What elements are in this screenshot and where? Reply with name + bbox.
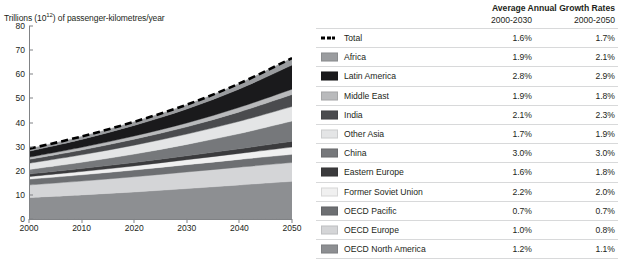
legend-series-label: China <box>344 148 366 158</box>
x-axis-tick-mark <box>292 219 293 223</box>
y-axis-tick-mark <box>29 194 33 195</box>
legend-table: Average Annual Growth Rates 2000-2030 20… <box>316 0 618 249</box>
legend-growth-2000-2050: 3.0% <box>595 148 615 158</box>
y-axis-tick-mark <box>29 219 33 220</box>
plot-area: 80706050403020100 2000201020202030204020… <box>29 26 292 219</box>
legend-series-label: India <box>344 110 363 120</box>
y-axis-tick-mark <box>29 74 33 75</box>
legend-growth-2000-2030: 1.9% <box>512 91 532 101</box>
legend-growth-2000-2050: 2.1% <box>595 52 615 62</box>
legend-row: Latin America2.8%2.9% <box>316 66 618 85</box>
legend-swatch-icon <box>321 245 338 254</box>
legend-series-label: Middle East <box>344 91 389 101</box>
y-axis-tick-label: 70 <box>16 46 25 55</box>
legend-header: Average Annual Growth Rates 2000-2030 20… <box>316 0 618 28</box>
legend-row: Eastern Europe1.6%1.8% <box>316 162 618 181</box>
y-axis-tick-mark <box>29 170 33 171</box>
legend-series-label: OECD Europe <box>344 225 399 235</box>
legend-series-label: Africa <box>344 52 366 62</box>
chart-panel: Trillions (1012) of passenger-kilometres… <box>0 0 310 249</box>
legend-swatch-icon <box>321 149 338 158</box>
legend-swatch-icon <box>321 225 338 234</box>
legend-header-title: Average Annual Growth Rates <box>492 3 615 13</box>
legend-growth-2000-2030: 1.6% <box>512 167 532 177</box>
legend-series-label: Eastern Europe <box>344 167 404 177</box>
y-axis-title: Trillions (1012) of passenger-kilometres… <box>4 12 165 23</box>
x-axis-tick-mark <box>134 219 135 223</box>
legend-row: OECD North America1.2%1.1% <box>316 239 618 259</box>
legend-header-col-2000-2030: 2000-2030 <box>491 15 532 25</box>
y-axis-tick-label: 60 <box>16 70 25 79</box>
legend-growth-2000-2050: 1.8% <box>595 91 615 101</box>
legend-swatch-icon <box>321 110 338 119</box>
legend-growth-2000-2050: 0.8% <box>595 225 615 235</box>
legend-row: Former Soviet Union2.2%2.0% <box>316 182 618 201</box>
legend-growth-2000-2030: 2.1% <box>512 110 532 120</box>
legend-row: Other Asia1.7%1.9% <box>316 124 618 143</box>
legend-growth-2000-2030: 1.2% <box>512 244 532 254</box>
legend-series-label: OECD Pacific <box>344 206 397 216</box>
y-axis-tick-label: 30 <box>16 142 25 151</box>
legend-row: China3.0%3.0% <box>316 143 618 162</box>
x-axis-tick-label: 2050 <box>283 224 302 233</box>
y-axis-tick-mark <box>29 50 33 51</box>
y-axis-tick-label: 20 <box>16 167 25 176</box>
legend-growth-2000-2030: 0.7% <box>512 206 532 216</box>
x-axis-tick-label: 2030 <box>177 224 196 233</box>
legend-series-label: OECD North America <box>344 244 426 254</box>
legend-growth-2000-2050: 2.9% <box>595 71 615 81</box>
y-axis-tick-label: 80 <box>16 22 25 31</box>
y-axis-tick-mark <box>29 98 33 99</box>
y-axis-tick-mark <box>29 26 33 27</box>
x-axis-tick-mark <box>239 219 240 223</box>
y-axis-title-prefix: Trillions (10 <box>4 13 46 23</box>
x-axis-tick-mark <box>29 219 30 223</box>
y-axis-tick-label: 10 <box>16 191 25 200</box>
legend-swatch-icon <box>321 206 338 215</box>
x-axis-tick-label: 2020 <box>125 224 144 233</box>
legend-row: Middle East1.9%1.8% <box>316 86 618 105</box>
y-axis-tick-label: 50 <box>16 94 25 103</box>
legend-row: India2.1%2.3% <box>316 105 618 124</box>
legend-growth-2000-2050: 1.8% <box>595 167 615 177</box>
stacked-area-plot <box>29 26 292 219</box>
legend-growth-2000-2050: 1.9% <box>595 129 615 139</box>
y-axis-tick-label: 40 <box>16 118 25 127</box>
legend-series-label: Total <box>344 33 362 43</box>
legend-growth-2000-2050: 2.0% <box>595 187 615 197</box>
x-axis-tick-mark <box>81 219 82 223</box>
legend-growth-2000-2050: 1.7% <box>595 33 615 43</box>
x-axis-line <box>29 219 292 220</box>
legend-growth-2000-2030: 2.8% <box>512 71 532 81</box>
legend-series-label: Former Soviet Union <box>344 187 423 197</box>
legend-growth-2000-2050: 1.1% <box>595 244 615 254</box>
y-axis-title-suffix: ) of passenger-kilometres/year <box>53 13 165 23</box>
legend-swatch-icon <box>321 168 338 177</box>
legend-header-col-2000-2050: 2000-2050 <box>574 15 615 25</box>
legend-row-list: Total1.6%1.7%Africa1.9%2.1%Latin America… <box>316 28 618 259</box>
legend-growth-2000-2050: 2.3% <box>595 110 615 120</box>
legend-swatch-icon <box>321 187 338 196</box>
x-axis-tick-label: 2010 <box>72 224 91 233</box>
x-axis-tick-mark <box>186 219 187 223</box>
legend-growth-2000-2030: 3.0% <box>512 148 532 158</box>
legend-swatch-icon <box>321 130 338 139</box>
legend-series-label: Other Asia <box>344 129 384 139</box>
legend-swatch-icon <box>321 91 338 100</box>
y-axis-tick-mark <box>29 146 33 147</box>
legend-row: Total1.6%1.7% <box>316 28 618 47</box>
legend-series-label: Latin America <box>344 71 396 81</box>
legend-swatch-icon <box>321 72 338 81</box>
legend-growth-2000-2030: 1.6% <box>512 33 532 43</box>
legend-growth-2000-2030: 1.7% <box>512 129 532 139</box>
legend-row: Africa1.9%2.1% <box>316 47 618 66</box>
legend-growth-2000-2030: 1.9% <box>512 52 532 62</box>
legend-growth-2000-2050: 0.7% <box>595 206 615 216</box>
legend-row: OECD Pacific0.7%0.7% <box>316 201 618 220</box>
y-axis-tick-mark <box>29 122 33 123</box>
legend-swatch-dashed-line-icon <box>321 35 336 42</box>
x-axis-tick-label: 2040 <box>230 224 249 233</box>
x-axis-tick-label: 2000 <box>20 224 39 233</box>
legend-swatch-icon <box>321 53 338 62</box>
